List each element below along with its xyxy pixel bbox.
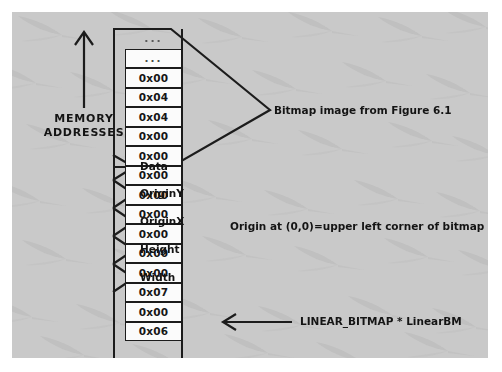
field-label-width: Width: [140, 271, 175, 283]
memory-cell: 0x07: [125, 283, 182, 303]
memory-cell: 0x00: [125, 68, 182, 88]
pointer-arrow-icon: [223, 314, 292, 330]
memory-cell: 0x04: [125, 88, 182, 108]
field-label-height: Height: [140, 243, 180, 255]
memory-addresses-caption: MEMORY ADDRESSES: [28, 112, 140, 140]
annotation-bitmap-image: Bitmap image from Figure 6.1: [274, 104, 452, 116]
figure-canvas: ... ... 0x00 0x04 0x04 0x00 0x00 0x00 0x…: [12, 12, 488, 358]
memory-cell: ...: [125, 49, 182, 69]
field-label-originx: OriginX: [140, 215, 184, 227]
memory-cell: 0x06: [125, 322, 182, 342]
annotation-pointer-label: LINEAR_BITMAP * LinearBM: [300, 315, 462, 327]
field-label-originy: OriginY: [140, 187, 184, 199]
up-arrow-icon: [75, 32, 93, 108]
field-label-data: Data: [140, 160, 168, 172]
memory-addresses-line2: ADDRESSES: [28, 126, 140, 140]
memory-cell-ellipsis-top: ...: [125, 29, 182, 49]
annotation-origin-note: Origin at (0,0)=upper left corner of bit…: [230, 220, 484, 232]
memory-cell: 0x00: [125, 302, 182, 322]
memory-addresses-line1: MEMORY: [28, 112, 140, 126]
line-art-layer: [12, 12, 488, 358]
memory-column-left-rail: [113, 29, 115, 358]
